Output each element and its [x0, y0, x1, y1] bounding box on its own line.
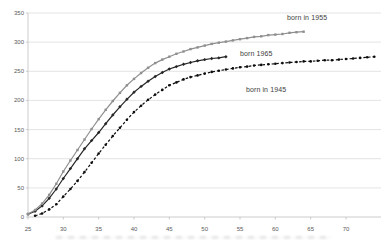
chart-screen: 0501001502002503003502530354045505560657…: [0, 0, 383, 240]
y-tick-label: 50: [17, 185, 24, 191]
x-tick-label: 35: [95, 226, 102, 232]
x-tick-label: 60: [272, 226, 279, 232]
y-tick-label: 100: [14, 156, 25, 162]
series-markers-born-1965: [26, 55, 227, 216]
x-tick-label: 50: [201, 226, 208, 232]
y-tick-label: 250: [14, 68, 25, 74]
line-chart: 0501001502002503003502530354045505560657…: [0, 0, 383, 240]
y-tick-label: 150: [14, 127, 25, 133]
x-tick-label: 55: [237, 226, 244, 232]
series-line-born-in-1955: [28, 32, 304, 214]
series-markers-born-in-1945: [34, 55, 376, 217]
x-tick-label: 25: [25, 226, 32, 232]
cropped-caption-remnant: [56, 236, 332, 239]
annotation-born-1965: born 1965: [240, 50, 272, 57]
y-tick-label: 200: [14, 97, 25, 103]
y-tick-label: 0: [21, 214, 25, 220]
x-tick-label: 70: [343, 226, 350, 232]
x-tick-label: 30: [60, 226, 67, 232]
x-tick-label: 40: [131, 226, 138, 232]
x-tick-label: 45: [166, 226, 173, 232]
annotation-born-in-1945: born in 1945: [246, 86, 286, 93]
x-tick-label: 65: [307, 226, 314, 232]
annotation-born-in-1955: born in 1955: [287, 14, 327, 21]
series-line-born-1965: [28, 57, 226, 214]
y-tick-label: 350: [14, 10, 25, 16]
y-tick-label: 300: [14, 39, 25, 45]
